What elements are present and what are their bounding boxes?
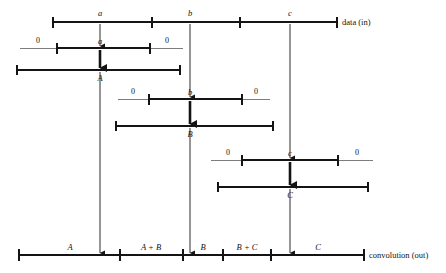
kernel-row-c-label: c: [288, 149, 292, 158]
convolution-segment-0: A: [67, 243, 72, 252]
thin-axis-lines: [20, 48, 373, 160]
arrow-layer: [100, 24, 290, 253]
kernel-row-b-zero-left: 0: [131, 88, 135, 96]
convolution-segment-1: A + B: [141, 243, 161, 252]
axis-ticks: [17, 17, 368, 262]
kernel-row-c-zero-right: 0: [355, 149, 359, 157]
data-in-sample-b: b: [188, 9, 192, 18]
figure-canvas: data (in) convolution (out) abca00b00c00…: [0, 0, 446, 273]
convolution-diagram: [0, 0, 446, 273]
kernel-row-b-zero-right: 0: [254, 88, 258, 96]
thick-axis-lines: [17, 22, 368, 255]
kernel-row-a-zero-left: 0: [36, 37, 40, 45]
kernel-row-c-zero-left: 0: [226, 149, 230, 157]
scaled-row-A-label: A: [97, 74, 102, 83]
convolution-segment-2: B: [200, 243, 205, 252]
kernel-row-b-label: b: [188, 88, 192, 97]
data-in-sample-a: a: [98, 9, 102, 18]
kernel-row-a-zero-right: 0: [165, 37, 169, 45]
convolution-segment-3: B + C: [237, 243, 258, 252]
convolution-segment-4: C: [315, 243, 321, 252]
data-in-sample-c: c: [288, 9, 292, 18]
convolution-out-caption: convolution (out): [369, 251, 428, 260]
scaled-row-C-label: C: [287, 191, 293, 200]
data-in-caption: data (in): [342, 18, 371, 27]
scaled-row-B-label: B: [187, 130, 192, 139]
kernel-row-a-label: a: [98, 37, 102, 46]
